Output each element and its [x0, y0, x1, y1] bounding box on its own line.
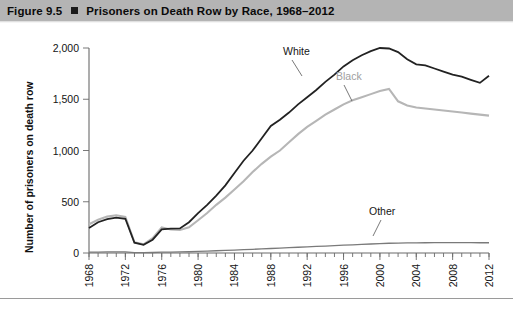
y-axis-label: Number of prisoners on death row	[23, 81, 35, 253]
x-minor-tick-group	[89, 253, 489, 257]
series-label-black: Black	[336, 70, 362, 82]
x-major-tick-group: 1968197219761980198419881992199620002004…	[83, 253, 495, 287]
x-tick-label-1996: 1996	[338, 264, 350, 288]
y-tick-label-500: 500	[61, 196, 79, 208]
x-tick-label-2000: 2000	[374, 264, 386, 288]
series-label-white: White	[283, 45, 310, 57]
series-label-other: Other	[369, 205, 396, 217]
figure-container: Figure 9.5 Prisoners on Death Row by Rac…	[0, 0, 513, 309]
x-tick-label-1980: 1980	[192, 264, 204, 288]
footer-divider	[0, 298, 513, 299]
figure-header-bar: Figure 9.5 Prisoners on Death Row by Rac…	[0, 0, 513, 21]
y-tick-label-2000: 2,000	[53, 42, 79, 54]
x-tick-label-1976: 1976	[156, 264, 168, 288]
x-tick-label-1988: 1988	[265, 264, 277, 288]
x-tick-label-1992: 1992	[301, 264, 313, 288]
figure-number: Figure 9.5	[7, 5, 62, 17]
y-tick-label-1000: 1,000	[53, 145, 79, 157]
annotation-black: Black	[336, 70, 362, 101]
series-line-other	[89, 243, 489, 253]
line-chart-svg: Number of prisoners on death row 0 500 1…	[0, 23, 513, 309]
chart-plot-area: Number of prisoners on death row 0 500 1…	[0, 23, 513, 309]
annotation-other: Other	[369, 205, 396, 236]
y-tick-label-1500: 1,500	[53, 93, 79, 105]
x-tick-label-1972: 1972	[119, 264, 131, 288]
figure-title: Prisoners on Death Row by Race, 1968–201…	[86, 5, 334, 17]
annotation-white: White	[283, 45, 310, 76]
x-tick-label-1984: 1984	[228, 264, 240, 288]
filled-square-icon	[71, 7, 78, 14]
x-tick-label-2004: 2004	[410, 264, 422, 288]
y-tick-label-0: 0	[73, 247, 79, 259]
series-line-white	[89, 48, 489, 245]
x-tick-label-2012: 2012	[483, 264, 495, 288]
x-tick-label-1968: 1968	[83, 264, 95, 288]
y-tick-group: 0 500 1,000 1,500 2,000	[53, 42, 89, 259]
x-tick-label-2008: 2008	[447, 264, 459, 288]
